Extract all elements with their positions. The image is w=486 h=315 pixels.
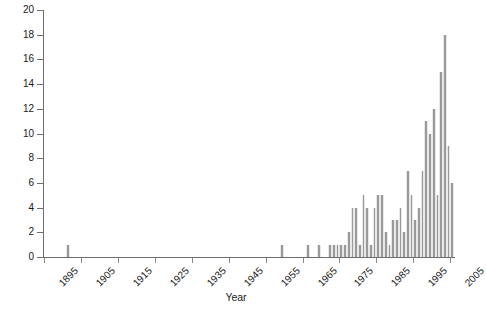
- y-tick-label: 20: [0, 5, 34, 15]
- y-tick-mark: [37, 208, 43, 209]
- y-tick-label: 12: [0, 104, 34, 114]
- x-tick-label: 1925: [167, 265, 191, 289]
- y-tick-mark: [37, 59, 43, 60]
- x-axis-label: Year: [0, 291, 472, 303]
- histogram-bar: [66, 245, 70, 257]
- histogram-bar: [450, 183, 454, 257]
- y-tick-mark: [37, 183, 43, 184]
- x-tick-label: 1945: [241, 265, 265, 289]
- y-tick-label: 18: [0, 30, 34, 40]
- y-tick-mark: [37, 35, 43, 36]
- x-tick-mark: [81, 258, 82, 263]
- y-tick-label: 14: [0, 79, 34, 89]
- y-tick-mark: [37, 84, 43, 85]
- x-tick-label: 1895: [57, 265, 81, 289]
- y-tick-mark: [37, 232, 43, 233]
- y-tick-label: 2: [0, 227, 34, 237]
- x-tick-label: 1995: [426, 265, 450, 289]
- y-tick-mark: [37, 10, 43, 11]
- histogram-bar: [280, 245, 284, 257]
- y-tick-mark: [37, 134, 43, 135]
- y-tick-label: 10: [0, 129, 34, 139]
- y-tick-label: 8: [0, 153, 34, 163]
- x-tick-mark: [376, 258, 377, 263]
- x-tick-label: 1905: [93, 265, 117, 289]
- histogram-bar: [317, 245, 321, 257]
- x-tick-label: 1985: [389, 265, 413, 289]
- x-axis-line: [43, 257, 455, 258]
- bars-layer: [44, 10, 454, 257]
- x-tick-mark: [118, 258, 119, 263]
- x-tick-label: 1975: [352, 265, 376, 289]
- y-tick-mark: [37, 109, 43, 110]
- x-tick-mark: [339, 258, 340, 263]
- y-tick-label: 4: [0, 203, 34, 213]
- x-tick-mark: [155, 258, 156, 263]
- x-tick-label: 2005: [463, 265, 486, 289]
- x-tick-mark: [266, 258, 267, 263]
- histogram-bar: [306, 245, 310, 257]
- y-tick-label: 16: [0, 54, 34, 64]
- x-tick-mark: [192, 258, 193, 263]
- x-tick-label: 1935: [204, 265, 228, 289]
- y-tick-mark: [37, 158, 43, 159]
- x-tick-label: 1955: [278, 265, 302, 289]
- x-tick-label: 1915: [130, 265, 154, 289]
- x-tick-mark: [229, 258, 230, 263]
- x-tick-label: 1965: [315, 265, 339, 289]
- x-tick-mark: [413, 258, 414, 263]
- y-tick-mark: [37, 257, 43, 258]
- x-tick-mark: [303, 258, 304, 263]
- y-tick-label: 6: [0, 178, 34, 188]
- y-tick-label: 0: [0, 252, 34, 262]
- x-tick-mark: [44, 258, 45, 263]
- x-tick-mark: [450, 258, 451, 263]
